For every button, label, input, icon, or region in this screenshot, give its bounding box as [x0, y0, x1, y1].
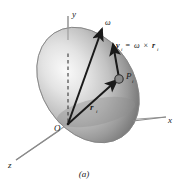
figure-canvas: y x z O ω r i P i v i = ω × r i (a): [0, 0, 183, 185]
velocity-equation: v i = ω × r i: [116, 41, 159, 52]
point-pi-label-letter: P: [125, 71, 132, 81]
y-axis-label: y: [71, 9, 76, 19]
z-axis-visible-segment: [16, 130, 60, 160]
omega-label: ω: [105, 18, 111, 27]
equation-rhs: r: [152, 41, 156, 50]
figure-caption: (a): [79, 169, 90, 179]
equation-rhs-subscript: i: [157, 47, 159, 52]
equation-lhs-subscript: i: [121, 47, 123, 52]
equation-lhs: v: [116, 41, 120, 50]
rigid-body-kinematics-figure: y x z O ω r i P i v i = ω × r i (a): [0, 0, 183, 185]
body-ellipsoid: [16, 8, 161, 162]
equation-cross: ×: [143, 41, 148, 50]
position-vector-label-letter: r: [90, 102, 94, 112]
point-pi-marker: [115, 75, 123, 83]
equation-equals: =: [125, 41, 130, 50]
origin-label: O: [54, 123, 61, 133]
z-axis-label: z: [7, 160, 12, 170]
rigid-body: [16, 8, 161, 162]
x-axis-label: x: [167, 115, 172, 125]
origin-marker: [67, 123, 70, 126]
equation-omega: ω: [134, 41, 140, 50]
